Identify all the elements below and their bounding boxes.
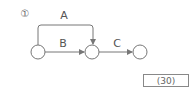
node-3 xyxy=(133,45,147,59)
node-1 xyxy=(31,45,45,59)
edge-c-label: C xyxy=(113,37,121,50)
problem-number: ① xyxy=(21,8,30,19)
node-2 xyxy=(85,45,99,59)
edge-a-label: A xyxy=(60,9,68,22)
answer-value: (30) xyxy=(157,76,175,86)
edge-b-label: B xyxy=(59,37,67,50)
answer-box: (30) xyxy=(143,74,189,87)
